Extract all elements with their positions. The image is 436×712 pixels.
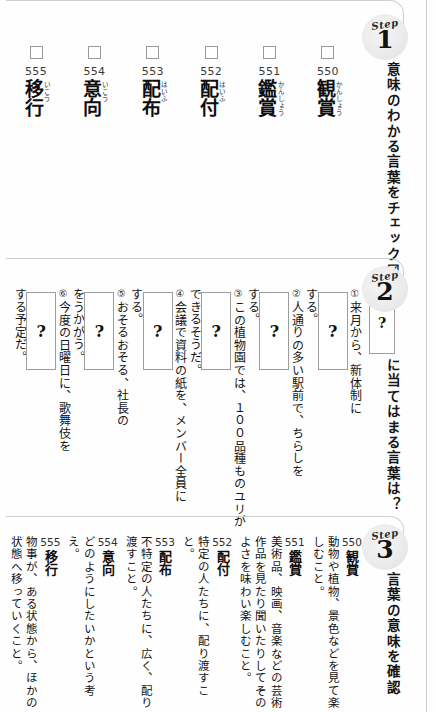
definition-text: 特定の人たちに、配り渡すこと。 — [180, 536, 210, 712]
question-marker: ⑤ — [116, 288, 127, 299]
step-1-section: Step 1 意味のわかる言葉をチェック☑ 555 移行 いこう 554 意向 … — [0, 0, 420, 258]
definition-item: どのようにしたいかという考え。 554 意向 — [65, 536, 117, 712]
vocab-furigana: いこう — [101, 79, 108, 102]
step-3-badge-number: 3 — [362, 537, 408, 562]
definition-number: 554 — [98, 536, 118, 548]
answer-blank[interactable]: ? — [84, 292, 114, 370]
step-2-section: Step 2 ? に当てはまる言葉は？ する予定だ。 ? ⑥ 今度の日曜日に、歌… — [0, 258, 420, 516]
vocab-checkbox[interactable] — [321, 46, 334, 59]
vocab-furigana: かんしょう — [276, 79, 283, 116]
answer-blank-mark: ? — [36, 322, 45, 341]
definition-number: 555 — [40, 536, 60, 548]
vocab-item[interactable]: 552 配付 はいふ — [185, 46, 237, 117]
question-column: ? — [201, 288, 231, 510]
question-column: ① 来月から、新体制に — [348, 288, 362, 510]
answer-blank[interactable]: ? — [259, 292, 289, 370]
definition-item: 不特定の人たちに、広く、配り渡すこと。 553 配布 — [123, 536, 175, 712]
definition-head: 554 意向 — [98, 536, 118, 576]
definition-text: 動物や植物、景色などを見て楽しむこと。 — [310, 536, 340, 712]
vocab-number: 555 — [25, 65, 47, 78]
answer-blank[interactable]: ? — [26, 292, 56, 370]
vocab-checkbox[interactable] — [263, 46, 276, 59]
definition-item: 動物や植物、景色などを見て楽しむこと。 550 観賞 — [310, 536, 362, 712]
definition-word: 意向 — [101, 550, 115, 576]
definition-item: 特定の人たちに、配り渡すこと。 552 配付 — [180, 536, 232, 712]
question-row: する予定だ。 ? ⑥ 今度の日曜日に、歌舞伎を をうかがう。 — [12, 288, 358, 510]
question-item: する。 ? ① 来月から、新体制に — [304, 288, 362, 510]
question-marker: ② — [291, 288, 302, 299]
question-column: ? — [84, 288, 114, 510]
vocab-item[interactable]: 554 意向 いこう — [68, 46, 120, 117]
definition-word: 配布 — [158, 550, 172, 576]
question-marker: ⑥ — [58, 288, 69, 299]
vocab-checkbox[interactable] — [88, 46, 101, 59]
answer-blank[interactable]: ? — [143, 292, 173, 370]
definition-number: 553 — [155, 536, 175, 548]
question-item: をうかがう。 ? ⑤ おそるおそる、社長の — [70, 288, 128, 510]
definition-text: どのようにしたいかという考え。 — [65, 536, 95, 712]
question-column: する。 — [245, 288, 259, 510]
step-3-heading: 言葉の意味を確認 — [384, 572, 400, 695]
question-item: できるそうだ。 ? ③ この植物園では、１００品種ものユリが — [187, 288, 245, 510]
vocab-checkbox[interactable] — [146, 46, 159, 59]
definition-item: 美術品、映画、音楽などの芸術作品を見たり聞いたりしてそのよさを味わい楽しむこと。… — [237, 536, 305, 712]
vocab-checkbox[interactable] — [205, 46, 218, 59]
page-right-rule — [426, 0, 427, 712]
question-column: をうかがう。 — [70, 288, 84, 510]
answer-blank-mark: ? — [270, 322, 279, 341]
question-text-after: する。 — [129, 288, 143, 326]
vocab-number: 550 — [317, 65, 339, 78]
question-text-before: 人通りの多い駅前で、ちらしを — [289, 301, 303, 477]
vocab-furigana: はいふ — [159, 79, 166, 102]
definition-word: 鑑賞 — [288, 550, 302, 576]
step-2-divider — [6, 258, 382, 259]
definition-word: 移行 — [44, 550, 58, 576]
answer-blank[interactable]: ? — [201, 292, 231, 370]
question-marker: ③ — [233, 288, 244, 299]
vocab-check-row: 555 移行 いこう 554 意向 いこう 553 配布 はい — [10, 46, 354, 117]
step-1-badge: Step 1 — [362, 14, 408, 60]
step-1-badge-number: 1 — [362, 27, 408, 52]
step-2-badge: Step 2 — [362, 266, 408, 312]
vocab-kanji: 移行 — [23, 79, 42, 117]
definition-head: 550 観賞 — [342, 536, 362, 576]
definition-item: 物事が、ある状態から、ほかの状態へ移っていくこと。 555 移行 — [8, 536, 60, 712]
definition-word: 配付 — [215, 550, 229, 576]
vocab-kanji: 配付 — [198, 79, 217, 117]
definition-number: 550 — [342, 536, 362, 548]
question-marker: ① — [349, 288, 360, 299]
question-column: ? — [143, 288, 173, 510]
question-text-before: おそるおそる、社長の — [114, 301, 128, 427]
question-column: する。 — [304, 288, 318, 510]
question-column: ④ 会議で資料の紙を、メンバー全員に — [173, 288, 187, 510]
question-text-before: 来月から、新体制に — [348, 301, 362, 414]
vocab-kanji: 鑑賞 — [256, 79, 275, 117]
vocab-kanji: 意向 — [81, 79, 100, 117]
question-marker: ④ — [174, 288, 185, 299]
vocab-item[interactable]: 550 観賞 かんしょう — [302, 46, 354, 117]
vocab-checkbox[interactable] — [30, 46, 43, 59]
vocab-item[interactable]: 553 配布 はいふ — [127, 46, 179, 117]
definition-head: 555 移行 — [40, 536, 60, 576]
question-item: する。 ? ② 人通りの多い駅前で、ちらしを — [245, 288, 303, 510]
question-text-before: 会議で資料の紙を、メンバー全員に — [173, 301, 187, 503]
step-2-heading: に当てはまる言葉は？ — [384, 358, 400, 512]
question-column: する予定だ。 — [12, 288, 26, 510]
definition-head: 552 配付 — [212, 536, 232, 576]
question-column: ⑥ 今度の日曜日に、歌舞伎を — [56, 288, 70, 510]
question-column: ? — [259, 288, 289, 510]
step-3-divider — [6, 516, 382, 517]
vocab-number: 551 — [259, 65, 281, 78]
worksheet-page: Step 1 意味のわかる言葉をチェック☑ 555 移行 いこう 554 意向 … — [0, 0, 436, 712]
definition-head: 553 配布 — [155, 536, 175, 576]
question-column: ? — [318, 288, 348, 510]
answer-blank-mark: ? — [153, 322, 162, 341]
answer-blank[interactable]: ? — [318, 292, 348, 370]
question-text-after: する。 — [245, 288, 259, 326]
question-text-after: できるそうだ。 — [187, 288, 201, 376]
answer-blank-mark: ? — [328, 322, 337, 341]
definition-word: 観賞 — [345, 550, 359, 576]
vocab-item[interactable]: 555 移行 いこう — [10, 46, 62, 117]
vocab-item[interactable]: 551 鑑賞 かんしょう — [244, 46, 296, 117]
question-text-after: をうかがう。 — [70, 288, 84, 364]
